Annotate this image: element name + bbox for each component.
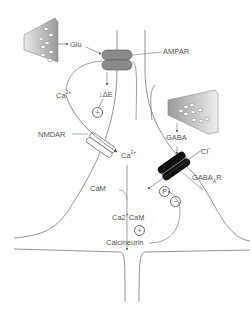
glutamate-terminal xyxy=(24,18,58,62)
gabaar-label: GABAAR xyxy=(192,174,222,184)
glu-label: Glu xyxy=(70,41,82,49)
gaba-terminal xyxy=(168,90,218,134)
gabaar-receptor xyxy=(156,150,203,190)
postsynaptic-neuron-outline xyxy=(14,30,250,302)
phosphate-circle: P xyxy=(159,186,170,197)
cam-label: CaM xyxy=(90,185,106,193)
ampar-label: AMPAR xyxy=(163,48,189,56)
delta-e-label: ↓ΔE xyxy=(99,91,113,99)
ca-top-label: Ca2+ xyxy=(56,90,71,99)
plus-circle-bottom: + xyxy=(134,225,145,236)
ampar-receptor xyxy=(102,50,162,70)
plus-circle-top: + xyxy=(92,107,103,118)
cl-label: Cl− xyxy=(201,146,211,155)
ca-mid-label: Ca2+ xyxy=(121,150,136,159)
gaba-label: GABA xyxy=(166,134,187,142)
calcineurin-label: Calcineurin xyxy=(106,239,144,247)
minus-circle: − xyxy=(170,196,181,207)
nmdar-label: NMDAR xyxy=(38,131,66,139)
ca2cam-label: Ca2+CaM xyxy=(112,212,145,221)
